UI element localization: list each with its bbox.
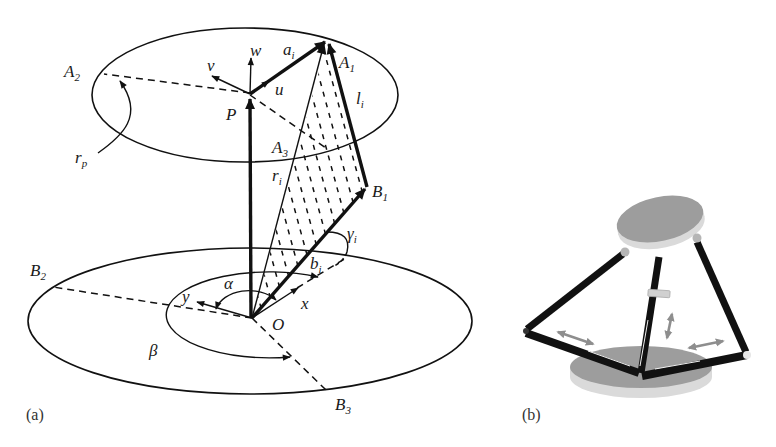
label-a-i: ai [283,40,295,61]
label-r-p: rp [75,148,88,169]
middle-slider-block [648,289,670,298]
middle-slider-motion-arrow [667,314,672,338]
figure-canvas: w ai A1 A2 v u P li rp A3 ri B1 γi bi B2… [0,0,776,447]
left-upper-link [527,254,623,329]
label-w: w [250,41,262,60]
label-b1: B1 [372,182,388,203]
joint-left-elbow [523,328,529,334]
label-y: y [180,287,190,306]
label-a1: A1 [338,53,355,74]
label-beta: β [148,341,158,360]
gamma-angle-arc [327,232,348,252]
label-p: P [225,105,236,124]
label-x: x [300,294,309,313]
y-axis-arrow [197,302,252,318]
moving-platform [612,188,709,256]
dashed-line-o-b3 [252,318,326,390]
label-b3: B3 [335,395,351,416]
label-o: O [272,315,284,334]
joint-top-left [621,248,630,257]
v-axis-arrow [212,76,250,94]
panel-b-robot-rendering: (b) [522,188,751,424]
label-v: v [207,56,215,75]
right-slider-motion-arrow [689,341,723,348]
label-gamma-i: γi [347,224,357,245]
panel-label-a: (a) [26,406,44,424]
label-l-i: li [356,89,364,110]
label-a3: A3 [271,138,288,159]
r-p-leader-arrow [98,81,131,153]
label-alpha: α [224,274,234,293]
panel-a-kinematic-diagram: w ai A1 A2 v u P li rp A3 ri B1 γi bi B2… [26,0,472,424]
right-upper-link [697,242,746,352]
w-axis-arrow [250,58,251,94]
moving-platform-ellipse [92,28,398,162]
label-b2: B2 [30,261,46,282]
label-r-i: ri [272,166,282,187]
panel-label-b: (b) [522,406,541,424]
joint-top-right [693,234,702,243]
joint-right-elbow [743,351,751,359]
figure-svg: w ai A1 A2 v u P li rp A3 ri B1 γi bi B2… [0,0,776,447]
dashed-line-o-b2 [53,287,252,318]
label-b-i: bi [310,254,322,275]
label-u: u [275,80,284,99]
label-a2: A2 [63,62,80,83]
u-axis-arrow [258,81,269,89]
vector-o-p [250,99,251,318]
